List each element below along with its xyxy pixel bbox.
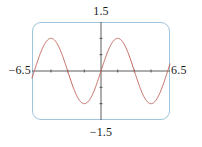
- plot-area: [32, 22, 170, 120]
- y-min-label: −1.5: [0, 126, 202, 138]
- y-max-label: 1.5: [0, 5, 202, 17]
- x-min-label: −6.5: [0, 64, 32, 76]
- x-max-label: 6.5: [171, 64, 187, 76]
- graphing-calculator-figure: 1.5 −1.5 −6.5 6.5: [0, 0, 202, 147]
